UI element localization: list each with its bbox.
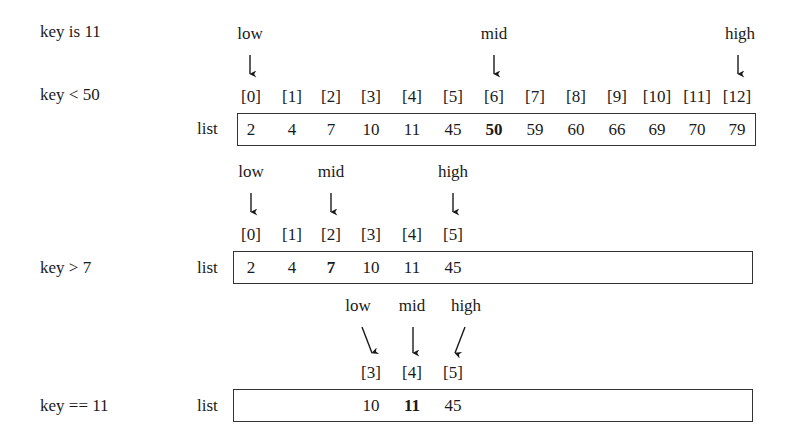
array-cell: 11 [404, 259, 420, 276]
array-cell: 10 [363, 121, 380, 138]
array-cell: 10 [363, 259, 380, 276]
index: [0] [241, 88, 261, 105]
array-cell: 60 [568, 121, 585, 138]
comparison-label: key < 50 [40, 86, 100, 103]
array-cell: 2 [247, 259, 256, 276]
index: [5] [443, 226, 463, 243]
index: [12] [723, 88, 751, 105]
index: [11] [683, 88, 711, 105]
array-cell: 7 [327, 121, 336, 138]
index: [4] [402, 364, 422, 381]
array-cell: 79 [729, 121, 746, 138]
array-cell: 45 [445, 121, 462, 138]
array-cell: 4 [288, 121, 297, 138]
low-pointer-label: low [345, 297, 371, 314]
index: [3] [361, 226, 381, 243]
array-cell: 45 [445, 397, 462, 414]
mid-pointer-label: mid [399, 297, 425, 314]
key-note: key is 11 [40, 23, 101, 40]
pointer-arrows [0, 0, 788, 443]
high-pointer-label: high [451, 297, 481, 314]
low-pointer-label: low [237, 25, 263, 42]
list-array-box [233, 389, 753, 422]
index: [9] [607, 88, 627, 105]
index: [2] [321, 88, 341, 105]
mid-pointer-label: mid [481, 25, 507, 42]
mid-pointer-label: mid [318, 163, 344, 180]
index: [4] [402, 226, 422, 243]
low-pointer-label: low [238, 163, 264, 180]
list-label: list [197, 397, 218, 414]
index: [8] [566, 88, 586, 105]
index: [5] [443, 364, 463, 381]
array-cell: 11 [404, 121, 420, 138]
high-pointer-label: high [438, 163, 468, 180]
array-cell: 2 [247, 121, 256, 138]
index: [2] [321, 226, 341, 243]
array-cell: 70 [689, 121, 706, 138]
list-array-box [233, 251, 753, 284]
array-cell: 59 [527, 121, 544, 138]
index: [3] [361, 88, 381, 105]
comparison-label: key == 11 [40, 397, 109, 414]
index: [1] [282, 88, 302, 105]
list-label: list [197, 259, 218, 276]
index: [0] [241, 226, 261, 243]
array-cell: 4 [288, 259, 297, 276]
index: [3] [361, 364, 381, 381]
index: [1] [282, 226, 302, 243]
index: [7] [525, 88, 545, 105]
array-cell: 10 [363, 397, 380, 414]
array-cell-mid: 11 [404, 397, 420, 414]
index: [6] [484, 88, 504, 105]
index: [10] [643, 88, 671, 105]
high-pointer-label: high [725, 25, 755, 42]
comparison-label: key > 7 [40, 259, 91, 276]
array-cell: 66 [609, 121, 626, 138]
index: [5] [443, 88, 463, 105]
list-label: list [197, 120, 218, 137]
array-cell-mid: 50 [486, 121, 503, 138]
array-cell-mid: 7 [327, 259, 336, 276]
array-cell: 45 [445, 259, 462, 276]
array-cell: 69 [649, 121, 666, 138]
index: [4] [402, 88, 422, 105]
